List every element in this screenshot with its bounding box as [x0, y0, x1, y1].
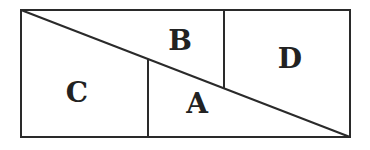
region-label-a: A: [185, 87, 209, 120]
rectangle-partition-diagram: B D C A: [0, 0, 370, 150]
region-label-d: D: [278, 42, 302, 75]
region-label-c: C: [66, 76, 88, 109]
region-label-b: B: [168, 24, 192, 57]
